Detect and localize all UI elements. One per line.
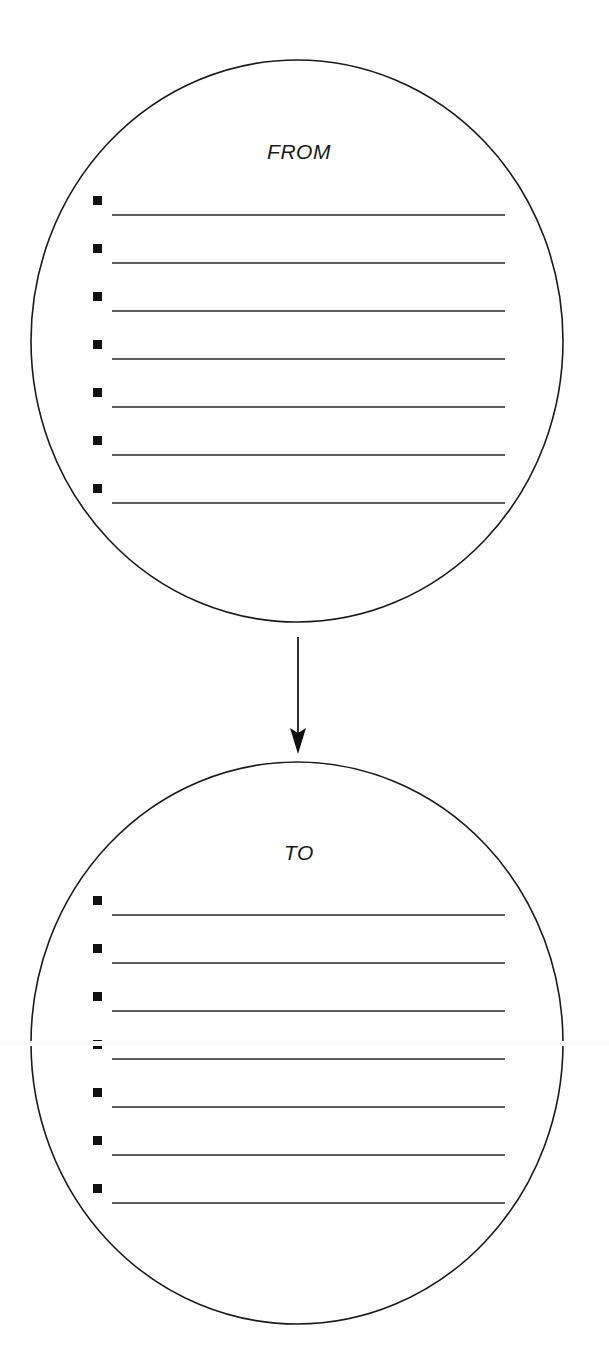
square-bullet-icon bbox=[93, 340, 102, 349]
square-bullet-icon bbox=[93, 1136, 102, 1145]
square-bullet-icon bbox=[93, 1040, 102, 1049]
from-node[interactable]: FROM bbox=[31, 60, 563, 622]
square-bullet-icon bbox=[93, 196, 102, 205]
to-label: TO bbox=[284, 841, 314, 864]
to-node[interactable]: TO bbox=[31, 762, 563, 1324]
square-bullet-icon bbox=[93, 436, 102, 445]
square-bullet-icon bbox=[93, 292, 102, 301]
from-to-connector bbox=[290, 637, 306, 754]
diagram-canvas: FROM bbox=[0, 0, 609, 1372]
square-bullet-icon bbox=[93, 1184, 102, 1193]
square-bullet-icon bbox=[93, 896, 102, 905]
square-bullet-icon bbox=[93, 484, 102, 493]
from-to-diagram: FROM bbox=[0, 0, 609, 1372]
square-bullet-icon bbox=[93, 388, 102, 397]
square-bullet-icon bbox=[93, 944, 102, 953]
square-bullet-icon bbox=[93, 992, 102, 1001]
from-label: FROM bbox=[267, 140, 331, 163]
square-bullet-icon bbox=[93, 1088, 102, 1097]
square-bullet-icon bbox=[93, 244, 102, 253]
